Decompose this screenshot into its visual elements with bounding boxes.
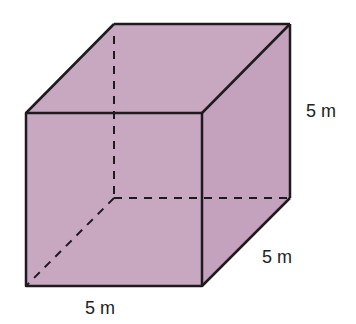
depth-label: 5 m xyxy=(262,247,292,267)
width-label: 5 m xyxy=(85,298,115,318)
cube-front-face xyxy=(26,113,202,286)
height-label: 5 m xyxy=(306,101,336,121)
cube-diagram: 5 m 5 m 5 m xyxy=(0,0,356,324)
